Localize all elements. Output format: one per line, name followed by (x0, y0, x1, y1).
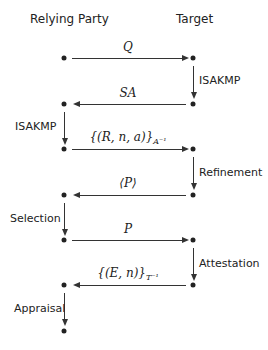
arrowhead-down-icon (191, 183, 197, 190)
arrowhead-down-icon (62, 319, 68, 326)
rp-node-4 (62, 193, 67, 198)
arrowhead-left-icon (73, 192, 80, 198)
arrow-rna (72, 149, 182, 150)
target-node-4 (191, 193, 196, 198)
message-q: Q (123, 40, 133, 54)
step-appraisal: Appraisal (14, 302, 65, 315)
arrow-p-set (80, 195, 186, 196)
rp-node-6 (62, 283, 67, 288)
target-step-isakmp (193, 66, 194, 94)
target-node-2 (191, 102, 196, 107)
rp-step-selection (64, 203, 65, 231)
message-en-text: {(E, n)} (97, 266, 146, 280)
rp-node-1 (62, 56, 67, 61)
arrowhead-right-icon (182, 237, 189, 243)
arrow-sa (80, 104, 186, 105)
header-relying-party: Relying Party (30, 12, 109, 26)
target-node-3 (191, 147, 196, 152)
step-refinement: Refinement (199, 166, 262, 179)
message-rna-text: {(R, n, a)} (89, 130, 153, 144)
target-node-5 (191, 238, 196, 243)
rp-node-7 (62, 329, 67, 334)
message-en: {(E, n)}T⁻¹ (97, 266, 159, 282)
rp-step-isakmp (64, 112, 65, 140)
step-isakmp-rp: ISAKMP (15, 120, 56, 133)
message-rna: {(R, n, a)}A⁻¹ (89, 130, 166, 146)
arrowhead-left-icon (73, 101, 80, 107)
arrow-p (72, 240, 182, 241)
target-node-1 (191, 56, 196, 61)
target-step-refinement (193, 157, 194, 185)
step-isakmp-target: ISAKMP (199, 74, 240, 87)
step-attestation: Attestation (199, 257, 260, 270)
message-rna-sub: A⁻¹ (153, 137, 166, 146)
target-step-attestation (193, 248, 194, 276)
arrowhead-right-icon (182, 55, 189, 61)
step-selection: Selection (10, 212, 61, 225)
rp-node-2 (62, 102, 67, 107)
message-p-set: ⟨P⟩ (119, 176, 136, 190)
arrowhead-down-icon (191, 92, 197, 99)
arrow-en (80, 285, 186, 286)
message-en-sub: T⁻¹ (146, 273, 159, 282)
target-node-6 (191, 283, 196, 288)
arrowhead-down-icon (62, 138, 68, 145)
arrowhead-left-icon (73, 282, 80, 288)
rp-node-3 (62, 147, 67, 152)
arrow-q (72, 58, 182, 59)
message-sa: SA (120, 86, 137, 100)
arrowhead-right-icon (182, 146, 189, 152)
arrowhead-down-icon (62, 229, 68, 236)
rp-node-5 (62, 238, 67, 243)
arrowhead-down-icon (191, 274, 197, 281)
message-p: P (124, 222, 132, 236)
header-target: Target (176, 12, 213, 26)
